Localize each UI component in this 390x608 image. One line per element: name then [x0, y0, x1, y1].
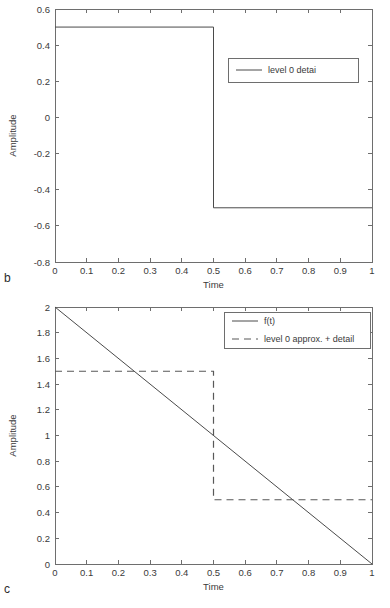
y-tick-label: 0.6 — [37, 481, 50, 492]
x-tick-label: 0.3 — [143, 265, 156, 276]
x-tick-label: 0.5 — [207, 567, 220, 578]
y-tick-label: 0.4 — [37, 40, 50, 51]
y-tick-label: 0.2 — [37, 76, 50, 87]
y-tick-label: 0.4 — [37, 507, 50, 518]
y-axis-title: Amplitude — [7, 114, 18, 156]
y-tick-label: 2 — [45, 302, 50, 313]
y-tick-label: 1 — [45, 430, 50, 441]
x-tick-label: 0.6 — [239, 567, 252, 578]
legend-label-1: level 0 approx. + detail — [264, 334, 354, 344]
x-axis-title: Time — [203, 279, 224, 290]
x-tick-label: 0.2 — [112, 567, 125, 578]
y-tick-label: -0.4 — [34, 184, 50, 195]
legend-label-0: level 0 detai — [268, 65, 316, 75]
chart-panel-c: 00.10.20.30.40.50.60.70.80.9121.81.61.41… — [0, 300, 390, 608]
x-tick-label: 0.3 — [143, 567, 156, 578]
y-tick-label: 1.6 — [37, 353, 50, 364]
y-tick-label: -0.8 — [34, 257, 50, 268]
x-tick-label: 0 — [52, 265, 57, 276]
x-axis-title: Time — [203, 581, 224, 592]
y-tick-label: -0.6 — [34, 220, 50, 231]
panel-label-b: b — [4, 271, 11, 285]
x-tick-label: 0.1 — [80, 567, 93, 578]
x-tick-label: 0.4 — [175, 567, 188, 578]
series-line-0 — [55, 27, 372, 208]
y-tick-label: 0 — [45, 559, 50, 570]
x-tick-label: 0.4 — [175, 265, 188, 276]
x-tick-label: 0.5 — [207, 265, 220, 276]
x-tick-label: 0.9 — [334, 567, 347, 578]
x-tick-label: 0 — [52, 567, 57, 578]
x-tick-label: 1 — [369, 265, 374, 276]
y-tick-label: 1.2 — [37, 404, 50, 415]
plot-c: 00.10.20.30.40.50.60.70.80.9121.81.61.41… — [0, 300, 390, 608]
y-tick-label: 0 — [45, 112, 50, 123]
y-tick-label: -0.2 — [34, 148, 50, 159]
x-tick-label: 1 — [369, 567, 374, 578]
x-tick-label: 0.7 — [270, 567, 283, 578]
x-tick-label: 0.2 — [112, 265, 125, 276]
x-tick-label: 0.8 — [302, 265, 315, 276]
legend-label-0: f(t) — [264, 316, 275, 326]
x-tick-label: 0.1 — [80, 265, 93, 276]
panel-label-c: c — [4, 582, 10, 596]
figure-container: 00.10.20.30.40.50.60.70.80.910.60.40.20-… — [0, 0, 390, 608]
x-tick-label: 0.8 — [302, 567, 315, 578]
x-tick-label: 0.7 — [270, 265, 283, 276]
y-tick-label: 0.8 — [37, 456, 50, 467]
y-tick-label: 1.4 — [37, 379, 50, 390]
y-tick-label: 1.8 — [37, 327, 50, 338]
y-tick-label: 0.6 — [37, 4, 50, 15]
chart-panel-b: 00.10.20.30.40.50.60.70.80.910.60.40.20-… — [0, 0, 390, 300]
x-tick-label: 0.6 — [239, 265, 252, 276]
y-tick-label: 0.2 — [37, 533, 50, 544]
x-tick-label: 0.9 — [334, 265, 347, 276]
plot-b: 00.10.20.30.40.50.60.70.80.910.60.40.20-… — [0, 0, 390, 300]
y-axis-title: Amplitude — [7, 414, 18, 456]
series-line-1 — [55, 371, 372, 500]
